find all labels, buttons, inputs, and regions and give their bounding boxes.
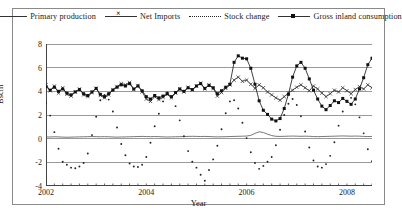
legend-label: Gross inland consumption bbox=[313, 12, 401, 21]
legend-swatch-square-marker-icon bbox=[278, 12, 310, 20]
y-axis-ticks: 86420-2-4 bbox=[22, 0, 42, 217]
x-tick-label: 2002 bbox=[38, 188, 54, 197]
legend-item-gross-inland-consumption: Gross inland consumption bbox=[278, 12, 401, 21]
chart-legend: Primary production Net Imports Stock cha… bbox=[0, 7, 397, 25]
legend-item-stock-change: Stock change bbox=[189, 12, 269, 21]
legend-label: Stock change bbox=[224, 12, 269, 21]
x-tick-label: 2008 bbox=[339, 188, 355, 197]
y-axis-title: Bscm bbox=[0, 85, 5, 104]
legend-item-primary-production: Primary production bbox=[0, 12, 96, 21]
x-tick-label: 2006 bbox=[239, 188, 255, 197]
y-tick-label: -2 bbox=[22, 158, 42, 167]
plot-svg bbox=[46, 44, 372, 186]
x-tick-label: 2004 bbox=[138, 188, 154, 197]
legend-swatch-x-marker-icon bbox=[105, 12, 137, 20]
legend-item-net-imports: Net Imports bbox=[105, 12, 180, 21]
legend-swatch-dotted-icon bbox=[189, 16, 221, 17]
y-tick-label: 6 bbox=[22, 63, 42, 72]
legend-label: Net Imports bbox=[140, 12, 180, 21]
y-tick-label: 8 bbox=[22, 40, 42, 49]
y-tick-label: 0 bbox=[22, 134, 42, 143]
plot-area bbox=[46, 44, 372, 186]
y-tick-label: 4 bbox=[22, 87, 42, 96]
x-axis-title: Year bbox=[0, 198, 397, 208]
y-tick-label: 2 bbox=[22, 111, 42, 120]
